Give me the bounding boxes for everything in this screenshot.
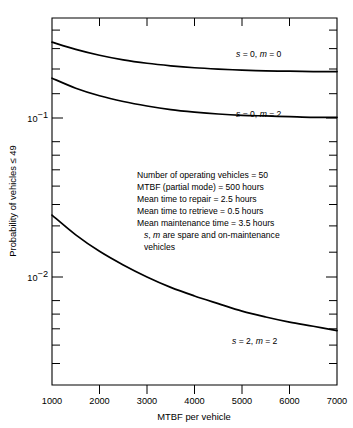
- curve-label-series-0: s = 0, m = 0: [236, 49, 282, 59]
- x-tick-label-2: 3000: [137, 396, 157, 406]
- svg-text:10−2: 10−2: [27, 269, 48, 283]
- curve-label-0-m: m: [260, 49, 267, 59]
- y-tick-label-exp-1: −2: [38, 269, 48, 279]
- y-tick-label-base-1: 10: [27, 273, 37, 283]
- curve-label-2-m: m: [256, 336, 263, 346]
- y-axis-ticks-right: [326, 30, 337, 363]
- x-tick-label-6: 7000: [327, 396, 347, 406]
- annotation-block: Number of operating vehicles = 50 MTBF (…: [137, 170, 280, 252]
- curve-label-1-m: m: [260, 109, 267, 119]
- x-axis-title: MTBF per vehicle: [157, 411, 230, 422]
- annotation-line-1: MTBF (partial mode) = 500 hours: [137, 182, 264, 192]
- chart-figure: 10−1 10−2 1000 2000 3000 4000 5000 6000 …: [0, 0, 353, 428]
- x-tick-label-5: 6000: [279, 396, 299, 406]
- x-tick-labels: 1000 2000 3000 4000 5000 6000 7000: [42, 396, 347, 406]
- x-tick-label-4: 5000: [232, 396, 252, 406]
- annotation-line-2: Mean time to repair = 2.5 hours: [137, 194, 257, 204]
- y-tick-labels: 10−1 10−2: [27, 110, 48, 283]
- curve-label-series-2: s = 2, m = 2: [232, 336, 278, 346]
- x-axis-ticks-top: [100, 18, 290, 26]
- curve-label-series-1: s = 0, m = 2: [236, 109, 282, 119]
- annotation-line-6: vehicles: [144, 242, 175, 252]
- y-tick-label-exp-0: −1: [38, 110, 48, 120]
- x-axis-ticks-bottom: [100, 385, 290, 394]
- annotation-line-4: Mean maintenance time = 3.5 hours: [137, 218, 274, 228]
- x-tick-label-3: 4000: [184, 396, 204, 406]
- annotation-sym-m: m: [153, 230, 160, 240]
- y-tick-label-base-0: 10: [27, 114, 37, 124]
- x-tick-label-1: 2000: [89, 396, 109, 406]
- curve-series-0: [52, 42, 337, 71]
- x-tick-label-0: 1000: [42, 396, 62, 406]
- svg-text:10−1: 10−1: [27, 110, 48, 124]
- y-axis-title: Probability of vehicles ≤ 49: [7, 145, 18, 256]
- annotation-line-0: Number of operating vehicles = 50: [137, 170, 268, 180]
- annotation-line-5: s, m are spare and on-maintenance: [144, 230, 280, 240]
- annotation-line-3: Mean time to retrieve = 0.5 hours: [137, 206, 263, 216]
- curve-series-1: [52, 78, 337, 117]
- chart-svg: 10−1 10−2 1000 2000 3000 4000 5000 6000 …: [0, 0, 353, 428]
